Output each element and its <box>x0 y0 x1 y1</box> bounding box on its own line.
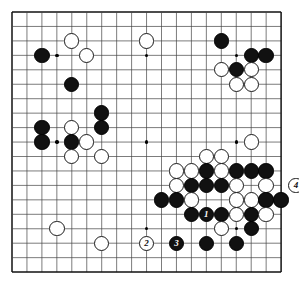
move-marker-stone-1[interactable]: 1 <box>199 207 214 222</box>
star-point <box>235 140 238 143</box>
stone-white[interactable] <box>79 134 94 149</box>
star-point <box>235 54 238 57</box>
stone-white[interactable] <box>258 207 273 222</box>
stone-black[interactable] <box>244 163 259 178</box>
move-number-label: 2 <box>140 237 153 250</box>
move-number-label: 1 <box>200 208 213 221</box>
go-diagram-root: 1234 <box>0 0 299 287</box>
stone-black[interactable] <box>184 178 199 193</box>
stone-black[interactable] <box>214 207 229 222</box>
stone-black[interactable] <box>34 134 49 149</box>
stone-black[interactable] <box>169 192 184 207</box>
stone-black[interactable] <box>184 207 199 222</box>
move-number-label: 4 <box>289 179 299 192</box>
star-point <box>145 140 148 143</box>
star-point <box>55 140 58 143</box>
stone-black[interactable] <box>199 163 214 178</box>
stone-black[interactable] <box>229 236 244 251</box>
stone-white[interactable] <box>199 149 214 164</box>
stone-white[interactable] <box>229 207 244 222</box>
stone-white[interactable] <box>139 33 154 48</box>
stone-black[interactable] <box>244 48 259 63</box>
move-marker-stone-3[interactable]: 3 <box>169 236 184 251</box>
stone-white[interactable] <box>244 77 259 92</box>
stone-black[interactable] <box>34 120 49 135</box>
stone-white[interactable] <box>244 192 259 207</box>
stone-black[interactable] <box>199 236 214 251</box>
stone-black[interactable] <box>258 163 273 178</box>
stone-white[interactable] <box>64 33 79 48</box>
stone-white[interactable] <box>229 178 244 193</box>
stone-white[interactable] <box>214 149 229 164</box>
stone-white[interactable] <box>184 192 199 207</box>
move-marker-stone-4[interactable]: 4 <box>288 178 299 193</box>
star-point <box>55 54 58 57</box>
stone-white[interactable] <box>214 163 229 178</box>
stone-black[interactable] <box>258 48 273 63</box>
stone-black[interactable] <box>199 178 214 193</box>
stone-white[interactable] <box>49 221 64 236</box>
stone-white[interactable] <box>229 192 244 207</box>
stone-white[interactable] <box>184 163 199 178</box>
stone-white[interactable] <box>229 77 244 92</box>
stone-black[interactable] <box>214 33 229 48</box>
move-number-label: 3 <box>170 237 183 250</box>
stone-black[interactable] <box>244 207 259 222</box>
stone-black[interactable] <box>229 163 244 178</box>
stone-white[interactable] <box>244 134 259 149</box>
move-marker-stone-2[interactable]: 2 <box>139 236 154 251</box>
stone-black[interactable] <box>258 192 273 207</box>
stone-black[interactable] <box>214 178 229 193</box>
go-board[interactable]: 1234 <box>0 0 299 287</box>
stone-black[interactable] <box>273 192 288 207</box>
stone-white[interactable] <box>169 163 184 178</box>
stone-black[interactable] <box>154 192 169 207</box>
stone-black[interactable] <box>34 48 49 63</box>
stone-white[interactable] <box>258 178 273 193</box>
stone-white[interactable] <box>169 178 184 193</box>
